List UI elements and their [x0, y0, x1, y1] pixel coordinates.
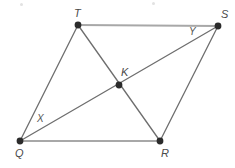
vertex-dot-S — [215, 23, 222, 30]
point-label-X: X — [37, 114, 44, 124]
vertex-dot-group — [17, 22, 222, 145]
scan-speck-top-left — [20, 3, 23, 6]
vertex-dot-R — [157, 138, 164, 145]
geometry-figure: T S K Q R X Y — [0, 0, 235, 168]
vertex-label-R: R — [161, 148, 169, 159]
vertex-dot-Q — [17, 138, 24, 145]
vertex-label-Q: Q — [15, 148, 24, 159]
point-label-Y: Y — [189, 27, 196, 37]
scan-speck-top-right — [152, 2, 155, 5]
vertex-label-K: K — [121, 67, 128, 78]
geometry-canvas — [0, 0, 235, 168]
vertex-label-T: T — [74, 8, 81, 19]
vertex-label-S: S — [221, 9, 228, 20]
segment-TS — [78, 25, 218, 26]
vertex-dot-K — [116, 82, 123, 89]
vertex-dot-T — [75, 22, 82, 29]
